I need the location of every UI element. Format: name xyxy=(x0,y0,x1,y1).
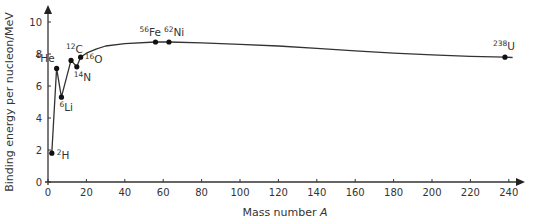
data-point-n xyxy=(74,64,79,69)
point-label-u: 238U xyxy=(493,39,515,52)
element-symbol: Ni xyxy=(174,26,185,38)
data-point-u xyxy=(502,55,507,60)
element-symbol: O xyxy=(94,53,102,65)
data-point-li xyxy=(59,95,64,100)
x-tick-label: 240 xyxy=(499,187,518,198)
binding-energy-curve xyxy=(52,42,513,153)
element-symbol: U xyxy=(507,40,515,52)
x-tick-label: 140 xyxy=(307,187,326,198)
x-tick-label: 80 xyxy=(195,187,208,198)
data-point-c xyxy=(68,58,73,63)
chart-svg: 0204060801001201401601802002202400246810… xyxy=(0,0,537,223)
point-label-c: 12C xyxy=(66,42,83,55)
mass-number-superscript: 14 xyxy=(74,70,84,79)
y-tick-label: 2 xyxy=(36,145,42,156)
element-symbol: Fe xyxy=(149,26,161,38)
mass-number-superscript: 16 xyxy=(85,52,95,61)
x-tick-label: 160 xyxy=(346,187,365,198)
element-symbol: Li xyxy=(64,101,73,113)
mass-number-superscript: 12 xyxy=(66,42,76,51)
x-tick-label: 0 xyxy=(45,187,51,198)
data-point-o xyxy=(78,55,83,60)
y-tick-label: 10 xyxy=(29,17,42,28)
x-tick-label: 100 xyxy=(230,187,249,198)
mass-number-superscript: 238 xyxy=(493,39,508,48)
mass-number-superscript: 56 xyxy=(140,25,150,34)
x-tick-label: 60 xyxy=(157,187,170,198)
data-point-he xyxy=(54,66,59,71)
x-axis-symbol: A xyxy=(319,206,328,219)
x-tick-label: 20 xyxy=(80,187,93,198)
element-symbol: C xyxy=(76,43,83,55)
element-symbol: H xyxy=(62,149,70,161)
point-label-fe: 56Fe xyxy=(140,25,161,38)
x-tick-label: 180 xyxy=(384,187,403,198)
point-label-n: 14N xyxy=(74,70,91,83)
x-axis-label: Mass number A xyxy=(242,206,327,219)
ticks: 0204060801001201401601802002202400246810 xyxy=(29,17,518,198)
x-tick-label: 220 xyxy=(461,187,480,198)
point-label-o: 16O xyxy=(85,52,103,65)
axes xyxy=(44,5,525,186)
x-axis-arrow-icon xyxy=(516,178,525,186)
element-symbol: He xyxy=(40,52,54,64)
point-label-he: 4He xyxy=(35,51,54,64)
data-point-h xyxy=(49,151,54,156)
data-curve xyxy=(52,42,513,153)
binding-energy-chart: 0204060801001201401601802002202400246810… xyxy=(0,0,537,223)
y-axis-label: Binding energy per nucleon/MeV xyxy=(3,12,16,192)
y-tick-label: 6 xyxy=(36,81,42,92)
element-symbol: N xyxy=(83,71,91,83)
y-tick-label: 0 xyxy=(36,177,42,188)
y-tick-label: 4 xyxy=(36,113,42,124)
point-label-h: 2H xyxy=(57,148,70,161)
point-label-ni: 62Ni xyxy=(164,25,184,38)
point-label-li: 6Li xyxy=(59,100,73,113)
x-tick-label: 120 xyxy=(269,187,288,198)
data-point-ni xyxy=(166,39,171,44)
mass-number-superscript: 62 xyxy=(164,25,174,34)
x-tick-label: 200 xyxy=(422,187,441,198)
y-axis-arrow-icon xyxy=(44,5,52,14)
x-tick-label: 40 xyxy=(118,187,131,198)
data-point-fe xyxy=(153,39,158,44)
